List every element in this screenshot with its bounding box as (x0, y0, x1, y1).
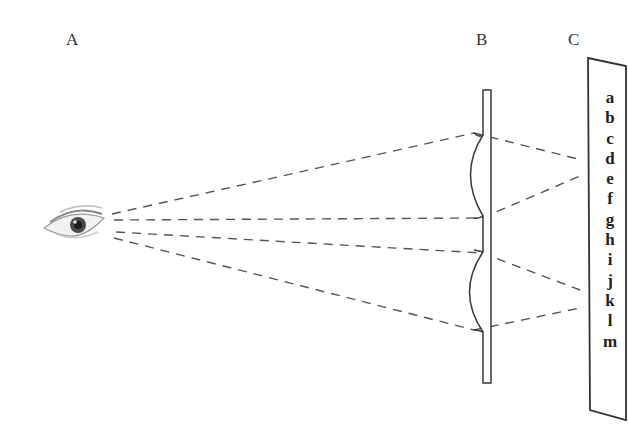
letter-e: e (606, 169, 614, 189)
optics-diagram: A B C (0, 0, 628, 447)
diagram-graphics (0, 0, 628, 447)
light-rays-incoming (112, 133, 482, 330)
letter-b: b (605, 108, 614, 128)
letter-g: g (606, 210, 615, 230)
letter-k: k (605, 291, 614, 311)
letter-i: i (608, 250, 613, 270)
letter-f: f (607, 189, 613, 209)
letter-j: j (607, 271, 613, 291)
letter-a: a (606, 88, 615, 108)
letter-d: d (605, 149, 614, 169)
letter-l: l (608, 311, 613, 331)
letter-c: c (606, 129, 614, 149)
letter-h: h (605, 230, 614, 250)
eye-icon (44, 206, 104, 238)
screen-letters: a b c d e f g h i j k l m (598, 88, 622, 352)
letter-m: m (603, 332, 617, 352)
